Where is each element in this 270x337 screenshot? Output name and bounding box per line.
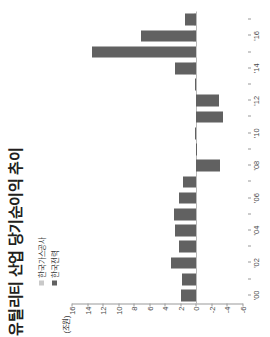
y-axis-tick-label: 2 (176, 306, 185, 310)
bar-kepco-11 (196, 111, 222, 123)
legend-swatch-icon (52, 280, 57, 285)
x-axis-tick-label: '16 (252, 30, 261, 40)
bar-kepco-04 (175, 224, 197, 236)
legend-swatch-icon (39, 280, 44, 285)
y-axis-tick-label: 14 (83, 306, 92, 314)
x-axis-tick-mark (248, 18, 251, 19)
x-axis-tick-mark (248, 132, 251, 133)
bar-kepco-08 (196, 159, 219, 171)
bar-kepco-06 (179, 192, 196, 204)
x-axis-tick-mark (248, 213, 251, 214)
chart-legend: 한국가스공사한국전력 (36, 237, 60, 285)
y-axis-line (72, 303, 243, 304)
bar-kepco-02 (171, 257, 196, 269)
y-axis-unit-label: (조원) (60, 315, 71, 333)
legend-item-kogas: 한국가스공사 (36, 237, 47, 285)
bar-kepco-10 (195, 127, 197, 139)
x-axis-tick-mark (248, 115, 251, 116)
y-axis-tick-label: 4 (161, 306, 170, 310)
x-axis-tick-mark (248, 99, 251, 100)
bar-kepco-13 (195, 78, 197, 90)
rotated-figure-wrapper: 유틸리티 산업 당기순이익 추이 한국가스공사한국전력 (조원) 1614121… (0, 0, 270, 337)
x-axis-tick-label: '02 (252, 258, 261, 268)
plot-area: 1614121086420-2-4-6 (72, 11, 243, 303)
x-axis-tick-label: '10 (252, 128, 261, 138)
y-axis-tick-label: -6 (239, 306, 248, 313)
y-axis-tick-label: 8 (130, 306, 139, 310)
bar-kepco-00 (181, 289, 197, 301)
plot-inner: 1614121086420-2-4-6 (72, 11, 243, 303)
bar-kepco-05 (174, 208, 197, 220)
bar-kepco-12 (196, 94, 219, 106)
x-axis-tick-label: '04 (252, 225, 261, 235)
y-axis-tick-label: 6 (145, 306, 154, 310)
x-axis-tick-mark (248, 180, 251, 181)
y-axis-tick-label: 12 (99, 306, 108, 314)
legend-item-kepco: 한국전력 (49, 237, 60, 285)
x-axis-labels: '00'02'04'06'08'10'12'14'16 (248, 11, 262, 303)
bar-kepco-01 (182, 273, 196, 285)
bar-kepco-14 (175, 62, 197, 74)
bar-kepco-03 (179, 240, 196, 252)
legend-label: 한국전력 (49, 250, 60, 277)
y-axis-tick-label: 16 (68, 306, 77, 314)
x-axis-tick-mark (248, 51, 251, 52)
x-axis-tick-mark (248, 278, 251, 279)
x-axis-tick-label: '00 (252, 290, 261, 300)
x-axis-tick-mark (248, 294, 251, 295)
x-axis-tick-label: '12 (252, 95, 261, 105)
x-axis-tick-label: '08 (252, 160, 261, 170)
bar-kepco-09 (196, 143, 197, 155)
y-axis-tick-label: -4 (223, 306, 232, 313)
bar-kepco-07 (183, 176, 196, 188)
x-axis-tick-mark (248, 261, 251, 262)
x-axis-tick-mark (248, 67, 251, 68)
chart-figure: 유틸리티 산업 당기순이익 추이 한국가스공사한국전력 (조원) 1614121… (0, 0, 270, 337)
x-axis-tick-mark (248, 229, 251, 230)
x-axis-tick-mark (248, 164, 251, 165)
x-axis-tick-label: '06 (252, 193, 261, 203)
x-axis-tick-mark (248, 83, 251, 84)
y-axis-tick-label: 10 (114, 306, 123, 314)
bar-kepco-17 (185, 13, 197, 25)
legend-label: 한국가스공사 (36, 237, 47, 277)
bar-kepco-16 (141, 30, 196, 42)
x-axis-tick-mark (248, 34, 251, 35)
x-axis-tick-label: '14 (252, 63, 261, 73)
x-axis-tick-mark (248, 148, 251, 149)
page-title: 유틸리티 산업 당기순이익 추이 (4, 147, 25, 335)
x-axis-tick-mark (248, 197, 251, 198)
x-axis-tick-mark (248, 245, 251, 246)
y-axis-tick-label: 0 (192, 306, 201, 310)
y-axis-tick-label: -2 (207, 306, 216, 313)
bar-kepco-15 (92, 46, 196, 58)
